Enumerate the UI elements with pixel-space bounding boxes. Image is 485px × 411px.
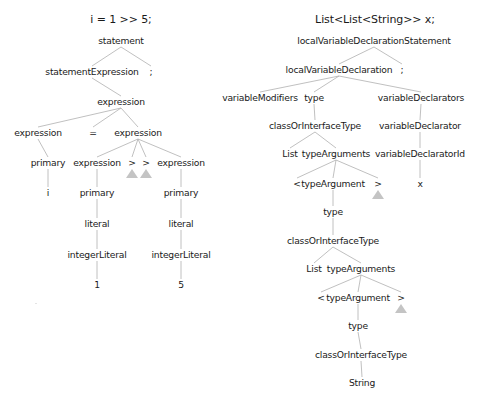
left_tree-node: primary — [80, 188, 115, 197]
right_tree-edge — [333, 160, 336, 178]
right_tree-node: variableModifiers — [222, 93, 298, 102]
left_tree-node: statementExpression — [45, 67, 138, 76]
left_tree-node: literal — [85, 219, 110, 228]
right_tree-edge — [321, 275, 361, 292]
right_tree-edge — [361, 275, 401, 292]
right_tree-node: type — [323, 207, 343, 216]
left_tree-node: > — [128, 158, 136, 167]
left_tree-edge — [121, 108, 138, 127]
right_tree-node: variableDeclarator — [379, 121, 461, 130]
left_tree-node: literal — [169, 219, 194, 228]
left_tree-node: expression — [114, 128, 162, 137]
left_tree-node: ; — [150, 67, 153, 76]
right_tree-node: List — [282, 149, 297, 158]
left_tree-node: integerLiteral — [68, 250, 127, 259]
right_tree-node: > — [374, 179, 382, 188]
left_tree-edge — [121, 47, 151, 66]
left_tree-edge — [132, 139, 138, 157]
right_tree-node: String — [349, 378, 375, 387]
right_tree-node: classOrInterfaceType — [269, 121, 361, 130]
left_tree-node: integerLiteral — [152, 250, 211, 259]
left_tree-node: 1 — [94, 280, 100, 289]
right_tree-edge — [358, 275, 361, 292]
right_tree-edge — [333, 247, 361, 263]
right_tree-edge — [358, 332, 361, 349]
right_tree-node: < — [317, 293, 325, 302]
parse-tree-edges — [0, 0, 485, 411]
right_tree-node: List — [306, 264, 321, 273]
left_tree-edge — [92, 47, 121, 66]
right_tree-node: typeArguments — [327, 264, 395, 273]
left-tree-title: i = 1 >> 5; — [90, 14, 151, 25]
right_tree-node: variableDeclaratorId — [375, 149, 465, 158]
left_tree-node: expression — [14, 128, 62, 137]
right_tree-edge — [336, 160, 378, 178]
right_tree-node: classOrInterfaceType — [287, 236, 379, 245]
right_tree-edge — [361, 361, 362, 377]
right_tree-node: classOrInterfaceType — [315, 350, 407, 359]
right_tree-node: type — [348, 321, 368, 330]
left_tree-node: primary — [31, 158, 66, 167]
right_tree-node: x — [417, 179, 422, 188]
right_tree-node: localVariableDeclaration — [286, 65, 393, 74]
left_tree-node: = — [89, 128, 97, 137]
right_tree-edge — [374, 47, 402, 64]
collapsed-subtree-triangle-icon — [126, 169, 138, 178]
left_tree-node: expression — [157, 158, 205, 167]
left_tree-node: expression — [97, 97, 145, 106]
right-tree-title: List<List<String>> x; — [315, 14, 435, 25]
right_tree-edge — [297, 160, 336, 178]
left_tree-node: primary — [164, 188, 199, 197]
right_tree-edge — [420, 104, 421, 120]
right_tree-node: < — [293, 179, 301, 188]
left_tree-edge — [38, 108, 121, 127]
collapsed-subtree-triangle-icon — [372, 190, 384, 199]
left_tree-node: > — [142, 158, 150, 167]
left_tree-edge — [38, 139, 48, 157]
right_tree-node: typeArgument — [301, 179, 365, 188]
right_tree-node: variableDeclarators — [378, 93, 464, 102]
right_tree-edge — [339, 76, 421, 92]
right_tree-edge — [314, 104, 315, 120]
right_tree-edge — [290, 132, 315, 148]
right_tree-edge — [315, 132, 336, 148]
right_tree-node: typeArguments — [302, 149, 370, 158]
collapsed-subtree-triangle-icon — [395, 304, 407, 313]
right_tree-edge — [314, 247, 333, 263]
collapsed-subtree-triangle-icon — [140, 169, 152, 178]
left_tree-edge — [92, 78, 121, 96]
right_tree-node: type — [304, 93, 324, 102]
left_tree-edge — [97, 139, 138, 157]
right_tree-node: localVariableDeclarationStatement — [297, 36, 450, 45]
right_tree-node: typeArgument — [326, 293, 390, 302]
right_tree-edge — [339, 47, 374, 64]
right_tree-node: ; — [401, 65, 404, 74]
left_tree-node: i — [47, 188, 49, 197]
left_tree-node: statement — [98, 36, 144, 45]
right_tree-node: > — [397, 293, 405, 302]
stray-dot — [35, 303, 37, 304]
left_tree-node: expression — [73, 158, 121, 167]
left_tree-node: 5 — [178, 280, 184, 289]
